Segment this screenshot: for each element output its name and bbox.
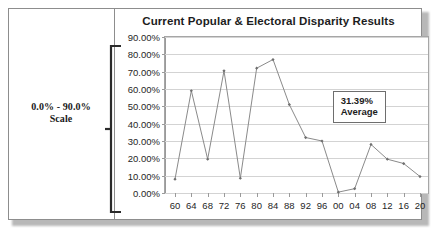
x-axis-tick-mark	[224, 193, 225, 197]
average-annotation-value: 31.39%	[341, 95, 378, 107]
y-axis-tick-label: 30.00%	[128, 136, 160, 147]
x-axis-tick-mark	[322, 193, 323, 197]
data-point-marker	[173, 178, 176, 181]
y-axis-tick-label: 90.00%	[128, 32, 160, 43]
x-axis-tick-mark	[191, 193, 192, 197]
y-axis-tick-label: 50.00%	[128, 101, 160, 112]
data-point-marker	[304, 136, 307, 139]
figure-frame: 0.0% - 90.0% Scale Current Popular & Ele…	[8, 8, 422, 220]
data-point-marker	[206, 158, 209, 161]
x-axis-tick-mark	[420, 193, 421, 197]
x-axis-tick-label: 80	[251, 200, 262, 211]
data-point-markers	[173, 58, 421, 194]
figure-container: 0.0% - 90.0% Scale Current Popular & Ele…	[0, 0, 440, 240]
x-axis-tick-label: 00	[333, 200, 344, 211]
x-axis-tick-mark	[355, 193, 356, 197]
x-axis-tick-label: 76	[235, 200, 246, 211]
scale-caption-panel: 0.0% - 90.0% Scale	[9, 9, 115, 219]
scale-caption-line-1: 0.0% - 90.0%	[9, 101, 113, 113]
x-axis-tick-mark	[306, 193, 307, 197]
average-annotation-label: Average	[341, 106, 378, 118]
x-axis-tick-mark	[175, 193, 176, 197]
x-axis-tick-label: 96	[317, 200, 328, 211]
plot-area: 0.00%10.00%20.00%30.00%40.00%50.00%60.00…	[164, 36, 429, 194]
data-point-marker	[190, 89, 193, 92]
x-axis-tick-mark	[387, 193, 388, 197]
x-axis-tick-label: 60	[170, 200, 181, 211]
chart-title: Current Popular & Electoral Disparity Re…	[116, 15, 421, 27]
x-axis-tick-label: 12	[382, 200, 393, 211]
x-axis-tick-label: 68	[202, 200, 213, 211]
x-axis-tick-label: 92	[300, 200, 311, 211]
x-axis-tick-mark	[404, 193, 405, 197]
x-axis-tick-mark	[338, 193, 339, 197]
y-axis-tick-label: 10.00%	[128, 170, 160, 181]
data-point-marker	[222, 69, 225, 72]
y-axis-tick-label: 70.00%	[128, 66, 160, 77]
y-axis-tick-mark	[162, 193, 165, 194]
gridline	[165, 193, 428, 194]
x-axis-tick-label: 04	[349, 200, 360, 211]
scale-caption: 0.0% - 90.0% Scale	[9, 101, 113, 125]
y-axis-tick-label: 80.00%	[128, 49, 160, 60]
data-point-marker	[239, 177, 242, 180]
x-axis-tick-mark	[273, 193, 274, 197]
data-point-marker	[288, 103, 291, 106]
x-axis-tick-mark	[371, 193, 372, 197]
x-axis-tick-label: 16	[398, 200, 409, 211]
data-series-line	[165, 37, 428, 193]
y-axis-tick-label: 40.00%	[128, 118, 160, 129]
data-point-marker	[353, 187, 356, 190]
x-axis-tick-mark	[208, 193, 209, 197]
y-axis-tick-label: 60.00%	[128, 84, 160, 95]
x-axis-tick-label: 20	[415, 200, 426, 211]
x-axis-tick-mark	[257, 193, 258, 197]
chart-panel: Current Popular & Electoral Disparity Re…	[116, 9, 421, 219]
x-axis-tick-label: 08	[366, 200, 377, 211]
x-axis-tick-mark	[289, 193, 290, 197]
scale-caption-line-2: Scale	[9, 113, 113, 125]
x-axis-tick-label: 88	[284, 200, 295, 211]
data-point-marker	[320, 139, 323, 142]
average-annotation-box: 31.39% Average	[333, 91, 386, 123]
y-axis-tick-label: 0.00%	[133, 188, 160, 199]
x-axis-tick-mark	[240, 193, 241, 197]
x-axis-tick-label: 84	[268, 200, 279, 211]
x-axis-tick-label: 64	[186, 200, 197, 211]
x-axis-tick-label: 72	[219, 200, 230, 211]
y-axis-tick-label: 20.00%	[128, 153, 160, 164]
